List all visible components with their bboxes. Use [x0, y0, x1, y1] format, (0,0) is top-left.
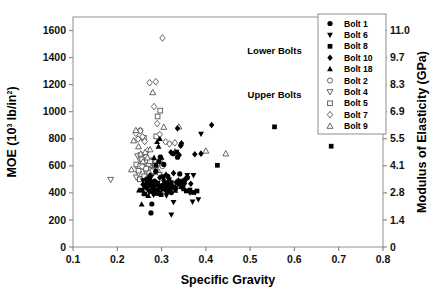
legend-marker-square	[328, 44, 333, 49]
data-point	[139, 201, 145, 206]
x-tick-label: 0.7	[331, 253, 346, 265]
data-point	[159, 192, 164, 197]
data-point	[163, 193, 169, 198]
data-point	[171, 200, 177, 205]
data-point	[215, 163, 220, 168]
x-tick-label: 0.3	[154, 253, 169, 265]
data-point	[156, 144, 162, 149]
legend-label: Bolt 18	[344, 64, 373, 74]
data-point	[151, 155, 157, 160]
x-tick-label: 0.1	[66, 253, 81, 265]
x-axis-title: Specific Gravity	[181, 273, 276, 287]
data-point	[172, 140, 177, 147]
x-tick-label: 0.2	[110, 253, 125, 265]
data-point	[129, 167, 135, 172]
data-point	[160, 35, 165, 42]
data-point	[158, 108, 163, 113]
legend-label: Bolt 5	[344, 98, 368, 108]
data-point	[171, 170, 176, 177]
data-point	[153, 163, 158, 168]
y-tick-label: 1600	[43, 24, 67, 36]
y2-tick-label: 8.3	[390, 78, 405, 90]
legend-label: Bolt 9	[344, 121, 368, 131]
y-axis-right: 01.42.84.15.56.98.39.711.0	[383, 24, 410, 252]
data-point	[223, 151, 229, 156]
data-point	[188, 181, 193, 188]
legend-marker-circle	[327, 21, 332, 26]
data-point	[149, 201, 154, 206]
scatter-plot: 0200400600800100012001400160001.42.84.15…	[0, 0, 437, 302]
y2-axis-title: Modulus of Elasticity (GPa)	[415, 51, 429, 213]
data-point	[198, 150, 203, 157]
legend-label: Bolt 7	[344, 110, 368, 120]
legend-label: Bolt 8	[344, 41, 368, 51]
y-tick-label: 1200	[43, 78, 67, 90]
data-point	[195, 197, 201, 202]
data-point	[209, 122, 214, 129]
annotation-label: Upper Bolts	[248, 89, 302, 100]
legend-label: Bolt 1	[344, 19, 368, 29]
y-tick-label: 600	[48, 159, 66, 171]
x-tick-label: 0.8	[376, 253, 391, 265]
data-point	[155, 114, 160, 119]
data-point	[150, 89, 156, 94]
legend-label: Bolt 10	[344, 53, 373, 63]
x-tick-label: 0.5	[243, 253, 258, 265]
legend-marker-circle	[327, 78, 332, 83]
chart-root: 0200400600800100012001400160001.42.84.15…	[0, 0, 437, 302]
y2-tick-label: 4.1	[390, 159, 405, 171]
data-points-layer	[108, 35, 334, 218]
legend-label: Bolt 4	[344, 87, 368, 97]
y-tick-label: 0	[60, 241, 66, 253]
y2-tick-label: 6.9	[390, 105, 405, 117]
data-point	[168, 212, 174, 217]
y2-tick-label: 1.4	[390, 214, 405, 226]
legend-marker-square	[328, 101, 333, 106]
data-point	[203, 148, 209, 153]
data-point	[191, 173, 197, 178]
y2-tick-label: 0	[390, 241, 396, 253]
annotation-label: Lower Bolts	[247, 45, 301, 56]
y-tick-label: 800	[48, 132, 66, 144]
y-axis-title: MOE (103 lb/in2)	[5, 86, 19, 177]
y2-tick-label: 2.8	[390, 186, 405, 198]
legend-label: Bolt 6	[344, 30, 368, 40]
data-point	[108, 177, 114, 182]
y2-tick-label: 5.5	[390, 132, 405, 144]
data-point	[177, 171, 182, 176]
y-axis-left: 02004006008001000120014001600	[43, 24, 73, 252]
legend: Bolt 1Bolt 6Bolt 8Bolt 10Bolt 18Bolt 2Bo…	[318, 14, 386, 134]
data-point	[161, 124, 167, 129]
data-point	[272, 125, 277, 130]
data-point	[136, 168, 141, 173]
data-point	[190, 200, 196, 205]
y-tick-label: 200	[48, 214, 66, 226]
y2-tick-label: 9.7	[390, 51, 405, 63]
annotations: Lower BoltsUpper Bolts	[247, 45, 301, 101]
y-tick-label: 1400	[43, 51, 67, 63]
x-tick-label: 0.4	[199, 253, 214, 265]
x-axis: 0.10.20.30.40.50.60.70.8	[66, 247, 391, 265]
data-point	[136, 144, 142, 149]
data-point	[192, 151, 197, 158]
data-point	[195, 189, 200, 194]
data-point	[151, 103, 156, 110]
data-point	[198, 132, 204, 137]
data-point	[153, 78, 158, 85]
y-tick-label: 400	[48, 186, 66, 198]
x-tick-label: 0.6	[287, 253, 302, 265]
legend-label: Bolt 2	[344, 76, 368, 86]
data-point	[161, 162, 166, 167]
data-point	[329, 144, 334, 149]
data-point	[147, 79, 152, 86]
data-point	[154, 120, 159, 127]
y-tick-label: 1000	[43, 105, 67, 117]
y2-tick-label: 11.0	[390, 24, 410, 36]
data-point	[148, 210, 153, 215]
